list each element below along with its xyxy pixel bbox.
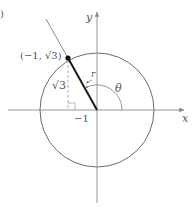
x-axis-label: x [182, 113, 188, 124]
radius-label: r [91, 70, 95, 79]
angle-label: θ [115, 83, 122, 94]
vertical-leg-label: √3 [52, 80, 66, 91]
y-axis-label: y [86, 12, 92, 23]
point-dot [65, 55, 70, 60]
horizontal-tick-label: −1 [74, 114, 89, 124]
radius-segment [68, 58, 97, 110]
corner-fragment-label: ) [0, 9, 4, 19]
right-angle-marker [68, 103, 75, 110]
r-pointer-arrow [86, 80, 92, 83]
point-label: (−1, √3) [20, 51, 62, 61]
polar-diagram [0, 0, 192, 209]
